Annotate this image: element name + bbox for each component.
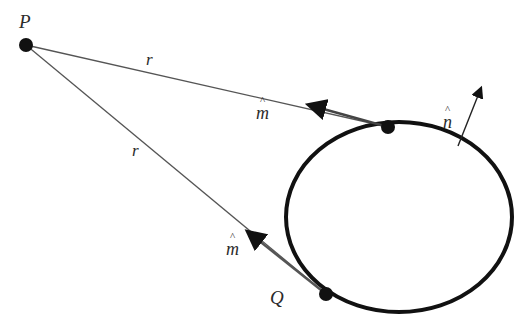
r-line-lower [26, 45, 326, 294]
label-m-hat-lower: m [226, 240, 239, 258]
m-hat-symbol: m [226, 240, 239, 258]
r-line-upper [26, 45, 388, 127]
m-hat-symbol: m [256, 104, 269, 122]
label-m-hat-upper: m [256, 104, 269, 122]
label-n-hat: n [443, 113, 452, 131]
label-P: P [19, 12, 31, 31]
label-r-lower: r [132, 142, 139, 159]
boundary-contour [286, 122, 512, 312]
point-Q [319, 287, 333, 301]
point-top [381, 120, 395, 134]
n-hat-arrow [458, 88, 481, 146]
m-hat-lower-arrow [248, 232, 326, 294]
label-r-upper: r [146, 51, 153, 68]
label-Q: Q [270, 288, 284, 307]
m-hat-upper-arrow [309, 105, 388, 127]
diagram-svg [0, 0, 528, 327]
diagram-canvas: P r r m m n Q [0, 0, 528, 327]
point-P [19, 38, 33, 52]
n-hat-symbol: n [443, 113, 452, 131]
